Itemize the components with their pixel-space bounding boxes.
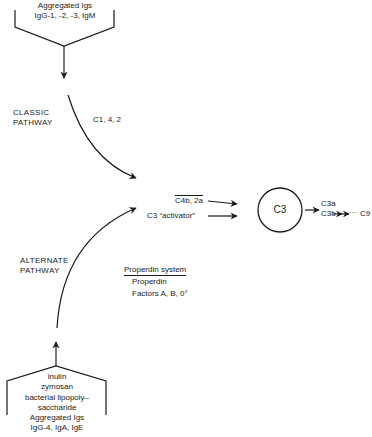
activator-label: C3 “activator”: [147, 211, 195, 221]
c3-node-label: C3: [262, 205, 298, 215]
alternate-source-line: Aggregated Igs: [10, 413, 104, 423]
alternate-source-label: inulin zymosan bacterial lipopoly– sacch…: [10, 372, 104, 434]
cascade-ellipsis: ···: [349, 208, 357, 218]
alternate-source-line: bacterial lipopoly–: [10, 393, 104, 403]
alternate-source-line: zymosan: [10, 382, 104, 392]
classic-components: C1, 4, 2: [93, 115, 121, 125]
alternate-pathway-label-line2: PATHWAY: [20, 266, 69, 276]
c3a-label: C3a: [321, 199, 336, 209]
classic-pathway-label-line2: PATHWAY: [13, 118, 53, 128]
c3b-label: C3b: [321, 209, 336, 219]
alternate-source-line: IgG-4, IgA, IgE: [10, 423, 104, 433]
alternate-source-line: inulin: [10, 372, 104, 382]
alternate-pathway-label: ALTERNATE PATHWAY: [20, 256, 69, 276]
c4b2a-arrow: [208, 201, 237, 204]
classic-source-label: Aggregated Igs IgG-1, -2, -3, IgM: [26, 1, 104, 21]
classic-pathway-label: CLASSIC PATHWAY: [13, 108, 53, 128]
c4b2a-label: C4b, 2a: [175, 196, 203, 206]
alternate-pathway-label-line1: ALTERNATE: [20, 256, 69, 266]
factors-item: Factors A, B, 0°: [132, 289, 188, 299]
alternate-source-line: saccharide: [10, 403, 104, 413]
properdin-item: Properdin: [132, 277, 167, 287]
classic-source-line2: IgG-1, -2, -3, IgM: [26, 11, 104, 21]
c4b2a-text: C4b, 2a: [175, 196, 203, 205]
properdin-system-heading: Properdin system: [124, 265, 186, 275]
properdin-system-heading-text: Properdin system: [124, 265, 186, 276]
c9-label: C9: [360, 209, 370, 219]
classic-source-line1: Aggregated Igs: [26, 1, 104, 11]
classic-pathway-label-line1: CLASSIC: [13, 108, 53, 118]
classic-pathway-arrow: [68, 95, 136, 178]
